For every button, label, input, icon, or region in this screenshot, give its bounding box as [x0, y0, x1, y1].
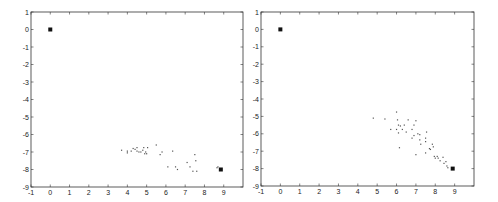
sample-point	[145, 151, 146, 152]
x-tick-label: 4	[356, 188, 360, 195]
x-tick-label: 2	[317, 188, 321, 195]
sample-point	[133, 148, 134, 149]
y-tick-label: -7	[23, 149, 29, 156]
sample-point	[438, 158, 439, 159]
sample-point	[413, 135, 414, 136]
x-tick-label: 6	[164, 189, 168, 196]
sample-point	[373, 118, 374, 119]
y-tick-label: -2	[23, 61, 29, 68]
sample-point	[420, 144, 421, 145]
sample-point	[434, 156, 435, 157]
y-tick-label: 0	[25, 26, 29, 33]
sample-point	[404, 125, 405, 126]
x-tick-label: 3	[337, 188, 341, 195]
sample-point	[417, 133, 418, 134]
y-tick-label: -1	[23, 44, 29, 51]
sample-point	[432, 144, 433, 145]
sample-point	[440, 160, 441, 161]
sample-point	[121, 150, 122, 151]
sample-point	[425, 141, 426, 142]
sample-point	[172, 151, 173, 152]
sample-point	[160, 154, 161, 155]
sample-point	[425, 138, 426, 139]
sample-point	[142, 150, 143, 151]
sample-point	[419, 134, 420, 135]
sample-point	[384, 118, 385, 119]
goal-marker	[219, 168, 223, 172]
x-tick-label: 0	[278, 188, 282, 195]
plot-right-canvas: -1012345678910-1-2-3-4-5-6-7-8-9	[249, 0, 498, 202]
sample-point	[400, 125, 401, 126]
sample-point	[177, 169, 178, 170]
x-tick-label: 6	[395, 188, 399, 195]
start-marker	[48, 28, 52, 32]
axes-frame	[31, 12, 243, 187]
x-tick-label: 5	[375, 188, 379, 195]
sample-point	[140, 151, 141, 152]
sample-point	[189, 166, 190, 167]
start-marker	[278, 27, 282, 31]
y-tick-label: -1	[253, 43, 259, 50]
sample-point	[390, 129, 391, 130]
scatter-plot-left: -1012345678910-1-2-3-4-5-6-7-8-9	[0, 0, 249, 202]
y-tick-label: -3	[23, 79, 29, 86]
y-tick-label: -9	[23, 184, 29, 191]
sample-point	[175, 166, 176, 167]
sample-point	[419, 139, 420, 140]
sample-point	[399, 147, 400, 148]
axes-frame	[261, 12, 474, 186]
x-tick-label: 9	[453, 188, 457, 195]
sample-point	[398, 132, 399, 133]
sample-point	[138, 151, 139, 152]
x-tick-label: 7	[183, 189, 187, 196]
sample-point	[143, 147, 144, 148]
sample-point	[442, 157, 443, 158]
sample-point	[187, 162, 188, 163]
sample-point	[396, 129, 397, 130]
x-tick-label: 1	[298, 188, 302, 195]
x-tick-label: 0	[48, 189, 52, 196]
sample-point	[217, 166, 218, 167]
sample-point	[147, 147, 148, 148]
sample-point	[437, 156, 438, 157]
sample-point	[415, 120, 416, 121]
sample-point	[435, 158, 436, 159]
y-tick-label: 1	[255, 9, 259, 16]
x-tick-label: 4	[125, 189, 129, 196]
y-tick-label: -5	[253, 113, 259, 120]
x-tick-label: 9	[222, 189, 226, 196]
sample-point	[127, 151, 128, 152]
sample-point	[446, 165, 447, 166]
goal-marker	[451, 167, 455, 171]
x-tick-label: 7	[414, 188, 418, 195]
y-tick-label: -4	[23, 96, 29, 103]
y-tick-label: -8	[253, 165, 259, 172]
sample-point	[397, 119, 398, 120]
scatter-plot-right: -1012345678910-1-2-3-4-5-6-7-8-9	[249, 0, 498, 202]
sample-point	[131, 151, 132, 152]
sample-point	[161, 151, 162, 152]
sample-point	[146, 153, 147, 154]
y-tick-label: -8	[23, 166, 29, 173]
sample-point	[425, 152, 426, 153]
sample-point	[144, 153, 145, 154]
sample-point	[406, 131, 407, 132]
sample-point	[411, 129, 412, 130]
y-tick-label: -2	[253, 61, 259, 68]
sample-point	[396, 111, 397, 112]
sample-point	[156, 144, 157, 145]
y-tick-label: 1	[25, 9, 29, 16]
x-tick-label: 5	[145, 189, 149, 196]
x-tick-label: 3	[106, 189, 110, 196]
y-tick-label: -3	[253, 78, 259, 85]
sample-point	[445, 161, 446, 162]
sample-point	[447, 167, 448, 168]
sample-point	[136, 151, 137, 152]
sample-point	[443, 163, 444, 164]
sample-point	[136, 147, 137, 148]
sample-point	[196, 171, 197, 172]
sample-point	[194, 154, 195, 155]
sample-point	[192, 171, 193, 172]
y-tick-label: -6	[253, 130, 259, 137]
y-tick-label: 0	[255, 26, 259, 33]
